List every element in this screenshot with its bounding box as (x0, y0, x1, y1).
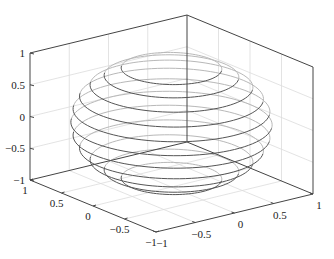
sphere-ring-front (71, 119, 272, 156)
y-tick-label: 1 (316, 199, 322, 211)
x-tick (125, 218, 128, 219)
y-tick (232, 212, 235, 213)
axes-box (30, 15, 313, 232)
z-tick (30, 117, 34, 118)
sphere-ring-back (74, 105, 270, 141)
z-tick-label: 0 (20, 111, 26, 123)
y-tick (153, 231, 156, 232)
y-tick-label: 0.5 (273, 209, 287, 221)
sphere-rings-front (71, 66, 272, 195)
sphere-ring-front (73, 105, 269, 141)
sphere-3d-plot: −1−0.500.51−1−0.500.51−1−0.500.51 (0, 0, 334, 259)
x-tick-label: −1 (145, 236, 157, 248)
z-tick (30, 148, 34, 149)
sphere-ring-back (71, 91, 272, 128)
x-tick-label: 0 (85, 210, 91, 222)
z-tick (30, 85, 34, 86)
grid-lines (30, 25, 313, 223)
sphere-ring-front (104, 167, 238, 192)
z-tick-label: −0.5 (5, 142, 25, 154)
y-tick-label: −1 (156, 237, 168, 249)
floor-grid-line (62, 155, 219, 193)
z-tick-label: 1 (20, 47, 26, 59)
x-tick-label: 1 (22, 184, 28, 196)
x-tick (93, 205, 96, 206)
z-tick-label: 0.5 (11, 79, 25, 91)
x-tick (62, 192, 65, 193)
y-tick-label: −0.5 (191, 228, 211, 240)
y-tick (192, 222, 195, 223)
y-tick-label: 0 (238, 218, 244, 230)
x-tick-label: 0.5 (50, 197, 64, 209)
y-tick (271, 203, 274, 204)
floor-grid-line (148, 152, 274, 204)
z-tick (30, 53, 34, 54)
x-tick-label: −0.5 (110, 223, 130, 235)
